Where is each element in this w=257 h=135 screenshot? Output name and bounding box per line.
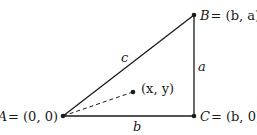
vertex-b-dot <box>192 13 197 18</box>
vertex-b-name: B <box>199 8 210 23</box>
point-p-label: (x, y) <box>141 81 174 96</box>
vertex-a-dot <box>61 114 66 119</box>
side-b-label: b <box>133 119 141 134</box>
vertex-a-name: A <box>0 109 7 124</box>
vertex-b-coords: = (b, a) <box>211 8 257 23</box>
dashed-segment-a-to-p <box>63 92 133 116</box>
triangle-diagram: A= (0, 0) B= (b, a) C= (b, 0) (x, y) c a… <box>0 0 257 135</box>
vertex-a-label: A= (0, 0) <box>0 109 58 124</box>
point-p-dot <box>131 90 136 95</box>
side-c-hypotenuse <box>63 15 194 116</box>
vertex-b-label: B= (b, a) <box>199 8 257 23</box>
vertex-c-coords: = (b, 0) <box>211 109 257 124</box>
vertex-a-coords: = (0, 0) <box>8 109 58 124</box>
vertex-c-dot <box>192 114 197 119</box>
vertex-c-name: C <box>200 109 210 124</box>
side-c-label: c <box>121 50 129 65</box>
side-a-label: a <box>198 59 206 74</box>
vertex-c-label: C= (b, 0) <box>200 109 257 124</box>
